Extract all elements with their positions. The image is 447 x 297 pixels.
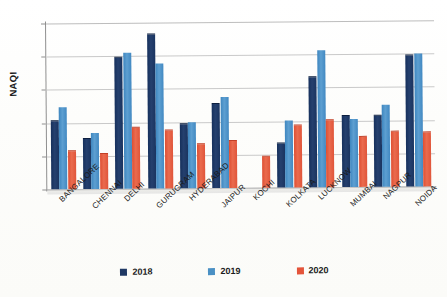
y-tick-mark-150 [42,90,46,91]
bar-noida-2019 [414,53,423,187]
bar-group-delhi [111,23,145,189]
legend-swatch-2018 [120,268,127,275]
legend-item-2019[interactable]: 2019 [208,266,240,276]
y-tick-mark-0 [42,189,46,190]
bar-lucknow-2019 [317,50,326,187]
bar-gurugram-2018 [147,33,156,188]
legend-label-2018: 2018 [132,267,152,277]
legend-item-2020[interactable]: 2020 [296,265,328,275]
bar-delhi-2019 [123,53,132,189]
y-tick-mark-100 [42,123,46,124]
bar-group-bangalore [46,23,80,189]
bar-kolkata-2018 [277,143,285,188]
legend-label-2020: 2020 [308,265,328,275]
y-tick-mark-200 [41,57,45,58]
bar-mumbai-2019 [350,119,359,187]
chart-legend: 201820192020 [1,264,447,278]
bar-series-layer [46,20,434,23]
bar-chennai-2020 [100,153,108,189]
legend-swatch-2019 [208,268,215,275]
legend-swatch-2020 [296,267,303,274]
plot-area [46,20,435,189]
naqi-bar-chart: NAQI 050100150200250 BANGALORECHENNAIDEL… [0,0,447,297]
bar-bangalore-2019 [59,108,68,190]
bar-lucknow-2018 [309,76,318,187]
y-tick-mark-50 [42,156,46,157]
bar-nagpur-2018 [374,115,383,187]
bar-group-nagpur [369,21,403,187]
bar-group-kolkata [272,21,306,187]
bar-group-kochi [240,22,274,188]
legend-item-2018[interactable]: 2018 [120,267,152,277]
bar-kolkata-2020 [294,125,302,188]
y-tick-mark-250 [41,23,45,24]
bar-jaipur-2020 [229,140,237,188]
bar-group-mumbai [337,21,371,187]
bar-chennai-2019 [91,133,99,189]
bar-nagpur-2019 [382,104,391,186]
y-axis-title: NAQI [7,72,18,97]
bar-noida-2020 [423,131,431,186]
bar-group-hyderabad [175,22,209,188]
bar-gurugram-2020 [165,130,173,189]
legend-label-2019: 2019 [220,266,240,276]
y-axis-tick-labels: 050100150200250 [0,0,446,2]
bar-group-gurugram [143,22,177,188]
bar-group-noida [402,20,436,186]
bar-lucknow-2020 [326,119,335,187]
bar-kolkata-2019 [285,120,294,187]
bar-mumbai-2020 [359,135,367,187]
bar-gurugram-2019 [155,64,164,189]
bar-bangalore-2018 [50,121,59,190]
x-axis-category-labels: BANGALORECHENNAIDELHIGURUGRAMHYDERABADJA… [0,0,446,2]
bar-group-lucknow [305,21,339,187]
